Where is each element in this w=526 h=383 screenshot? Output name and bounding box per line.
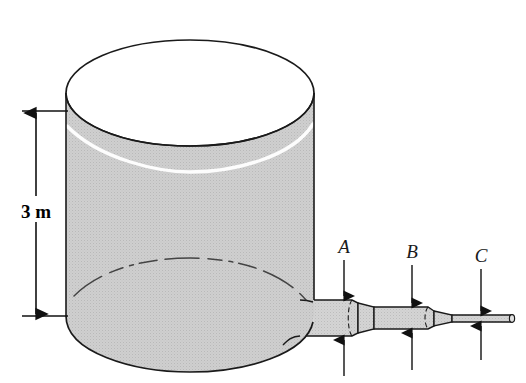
pipe-outlet-opening [509,315,514,323]
station-callout-c: C [475,245,488,360]
station-callout-b: B [406,241,418,370]
pipe-section-c [452,315,512,322]
pipe-taper-b-to-c [434,311,452,326]
station-label-c: C [475,245,488,266]
pipe-taper-a-to-b [358,303,374,333]
dimension-label: 3 m [21,201,51,222]
tank-pipe-drawing: 3 m A B C [0,0,526,383]
depth-dimension: 3 m [21,111,68,316]
discharge-pipe-assembly [300,300,515,336]
tank-body [60,40,322,380]
station-label-b: B [406,241,418,262]
figure-water-tank-pipe: 3 m A B C [0,0,526,383]
station-label-a: A [336,236,350,257]
